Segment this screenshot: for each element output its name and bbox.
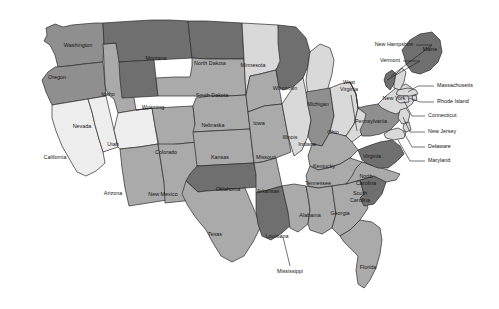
state-label-new-mexico: New Mexico: [148, 191, 177, 197]
callout-label-new-hampshire: New Hampshire: [375, 41, 413, 47]
state-label-washington: Washington: [64, 42, 92, 48]
state-label-nebraska: Nebraska: [201, 122, 224, 128]
state-label-texas: Texas: [208, 231, 222, 237]
state-label-louisiana: Louisiana: [265, 233, 288, 239]
state-north-dakota[interactable]: [188, 21, 244, 59]
leader-line-delaware: [403, 131, 425, 147]
callout-label-vermont: Vermont: [380, 57, 401, 63]
state-label-arkansas: Arkansas: [257, 188, 280, 194]
us-choropleth-map: WashingtonOregonCaliforniaNevadaIdahoUta…: [0, 0, 499, 309]
state-wyoming[interactable]: [119, 60, 158, 98]
state-label-alabama: Alabama: [299, 212, 320, 218]
callout-label-connecticut: Connecticut: [428, 112, 457, 118]
state-label-colorado: Colorado: [155, 149, 177, 155]
state-utah[interactable]: [114, 108, 158, 149]
state-label-tennessee: Tennessee: [305, 180, 331, 186]
state-label-minnesota: Minnesota: [241, 62, 266, 68]
callout-label-mississippi: Mississippi: [277, 268, 303, 274]
state-label-utah: Utah: [107, 141, 118, 147]
state-label-pennsylvania: Pennsylvania: [355, 118, 387, 124]
state-label-wisconsin: Wisconsin: [273, 85, 298, 91]
state-label-michigan: Michigan: [307, 101, 329, 107]
state-label-nevada: Nevada: [73, 123, 92, 129]
state-texas[interactable]: [182, 181, 260, 262]
state-label-kansas: Kansas: [211, 154, 229, 160]
callout-label-maryland: Maryland: [428, 157, 450, 163]
callout-label-new-jersey: New Jersey: [428, 128, 456, 134]
state-label-virginia: Virginia: [363, 153, 381, 159]
state-label-kentucky: Kentucky: [313, 163, 335, 169]
state-new-jersey[interactable]: [398, 108, 410, 124]
state-kansas[interactable]: [193, 129, 254, 166]
state-label-california: California: [44, 154, 67, 160]
state-label-ohio: Ohio: [327, 129, 338, 135]
callout-label-west-virginia: WestVirginia: [340, 79, 358, 92]
state-label-florida: Florida: [360, 264, 376, 270]
callout-label-massachusetts: Massachusetts: [437, 82, 473, 88]
callout-label-delaware: Delaware: [428, 143, 451, 149]
state-label-arizona: Arizona: [104, 190, 122, 196]
state-label-georgia: Georgia: [330, 210, 349, 216]
state-label-south-dakota: South Dakota: [196, 92, 229, 98]
state-label-oregon: Oregon: [48, 74, 66, 80]
map-canvas[interactable]: WashingtonOregonCaliforniaNevadaIdahoUta…: [0, 0, 499, 309]
state-label-new-york: New York: [383, 95, 406, 101]
leader-line-mississippi: [283, 237, 290, 266]
state-label-montana: Montana: [146, 55, 167, 61]
state-label-maine: Maine: [423, 46, 438, 52]
state-label-indiana: Indiana: [298, 141, 316, 147]
state-label-wyoming: Wyoming: [142, 104, 164, 110]
state-label-south-carolina: SouthCarolina: [350, 190, 370, 203]
state-label-north-dakota: North Dakota: [194, 60, 226, 66]
state-label-iowa: Iowa: [253, 120, 264, 126]
state-label-idaho: Idaho: [101, 91, 115, 97]
state-wisconsin[interactable]: [276, 25, 310, 90]
state-label-illinois: Illinois: [283, 134, 298, 140]
state-label-missouri: Missouri: [256, 154, 276, 160]
state-label-oklahoma: Oklahoma: [216, 186, 241, 192]
callout-label-rhode-island: Rhode Island: [437, 98, 469, 104]
